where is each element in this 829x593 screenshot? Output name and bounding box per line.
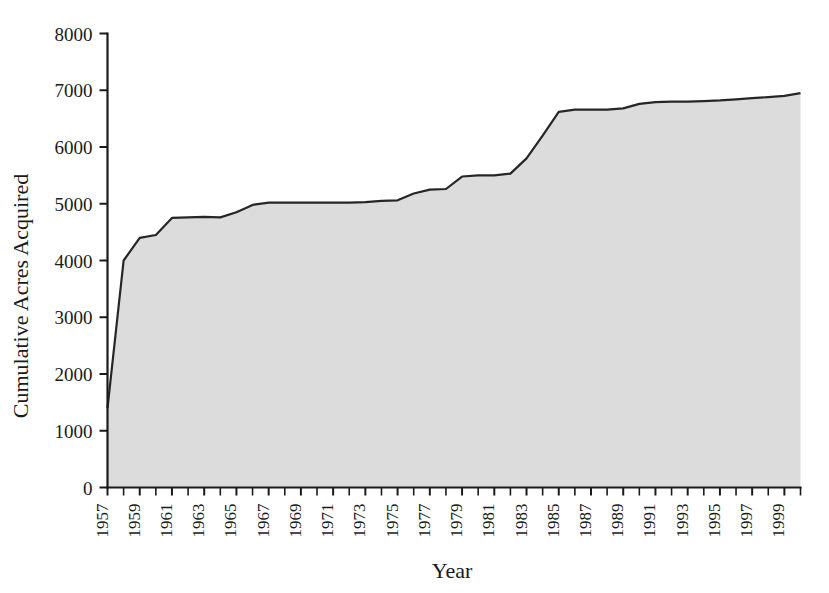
x-tick-label: 1961 xyxy=(157,504,176,538)
x-tick-label: 1963 xyxy=(189,504,208,538)
x-tick-label: 1983 xyxy=(512,504,531,538)
y-tick-label: 1000 xyxy=(55,421,93,442)
chart-container: 010002000300040005000600070008000 195719… xyxy=(0,0,829,593)
y-tick-marks xyxy=(100,34,108,488)
y-tick-label: 4000 xyxy=(55,251,93,272)
y-tick-label: 2000 xyxy=(55,364,93,385)
x-tick-label: 1971 xyxy=(318,504,337,538)
y-tick-label: 0 xyxy=(83,478,93,499)
x-tick-label: 1997 xyxy=(737,503,756,538)
x-tick-label: 1987 xyxy=(576,503,595,538)
area-fill xyxy=(108,93,801,487)
x-tick-label: 1979 xyxy=(447,504,466,538)
plot-area xyxy=(108,93,801,487)
x-tick-label: 1959 xyxy=(125,504,144,538)
x-tick-label: 1981 xyxy=(479,504,498,538)
x-tick-label: 1993 xyxy=(673,504,692,538)
y-tick-label: 7000 xyxy=(55,80,93,101)
x-tick-label: 1995 xyxy=(705,504,724,538)
x-tick-labels: 1957195919611963196519671969197119731975… xyxy=(93,503,789,538)
cumulative-acres-area-chart: 010002000300040005000600070008000 195719… xyxy=(0,0,829,593)
y-tick-labels: 010002000300040005000600070008000 xyxy=(55,24,93,499)
x-tick-label: 1967 xyxy=(254,503,273,538)
y-tick-label: 5000 xyxy=(55,194,93,215)
x-axis-title: Year xyxy=(432,558,473,583)
x-tick-label: 1973 xyxy=(350,504,369,538)
y-axis-title: Cumulative Acres Acquired xyxy=(8,174,33,418)
x-tick-label: 1969 xyxy=(286,504,305,538)
x-tick-label: 1965 xyxy=(221,504,240,538)
x-tick-label: 1985 xyxy=(544,504,563,538)
x-tick-label: 1975 xyxy=(383,504,402,538)
x-tick-label: 1977 xyxy=(415,503,434,538)
x-tick-label: 1991 xyxy=(640,504,659,538)
x-tick-marks xyxy=(108,488,801,496)
y-tick-label: 6000 xyxy=(55,137,93,158)
y-tick-label: 3000 xyxy=(55,307,93,328)
x-tick-label: 1999 xyxy=(769,504,788,538)
x-tick-label: 1957 xyxy=(93,503,112,538)
x-tick-label: 1989 xyxy=(608,504,627,538)
y-tick-label: 8000 xyxy=(55,24,93,45)
